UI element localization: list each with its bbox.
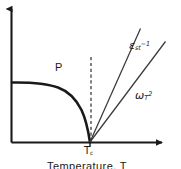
polarization-curve-label: P [55,62,62,73]
omega-T-squared-label: ωT2 [135,90,152,101]
figure-container: P εst−1 ωT2 Tc Temperature, T [0,0,181,169]
epsilon-st-inverse-label: εst−1 [129,40,150,51]
omega-symbol: ω [135,89,144,102]
x-axis-title: Temperature, T [47,161,127,169]
plot-canvas [0,0,181,169]
tc-subscript: c [90,150,93,156]
polarization-curve [12,82,90,142]
x-axis-tick-label-tc: Tc [84,146,93,156]
omega-superscript: 2 [148,90,152,98]
epsilon-superscript: −1 [141,40,150,48]
